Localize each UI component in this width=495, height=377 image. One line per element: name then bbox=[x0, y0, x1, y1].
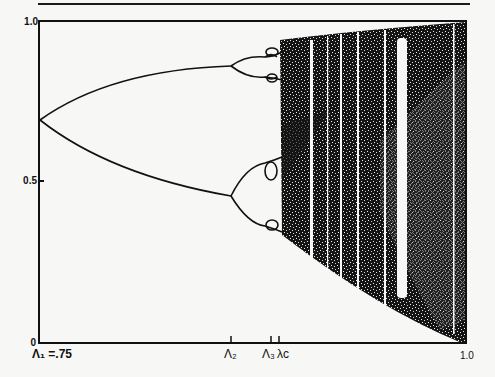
y-label-0.5: 0.5 bbox=[7, 175, 37, 186]
period-doubling-branches bbox=[40, 48, 282, 232]
x-label-lambda2: Λ₂ bbox=[224, 347, 237, 361]
chaotic-region bbox=[260, 22, 466, 343]
x-label-end: 1.0 bbox=[460, 350, 474, 361]
x-label-lambda3: Λ₃ bbox=[262, 347, 275, 361]
y-label-1: 1.0 bbox=[8, 16, 38, 27]
x-label-lambda1: Λ₁ =.75 bbox=[32, 347, 72, 361]
bifurcation-plot bbox=[0, 0, 495, 377]
x-label-lambdac: λc bbox=[277, 347, 289, 361]
